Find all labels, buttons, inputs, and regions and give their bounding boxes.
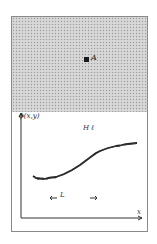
profile-plot — [0, 0, 157, 244]
y-axis-label: ϕ(x,y) — [19, 112, 39, 120]
curve-label: H ℓ — [83, 124, 94, 132]
length-label: L — [60, 191, 65, 199]
x-axis-label: x — [137, 208, 141, 216]
profile-curve-noise — [34, 144, 136, 180]
